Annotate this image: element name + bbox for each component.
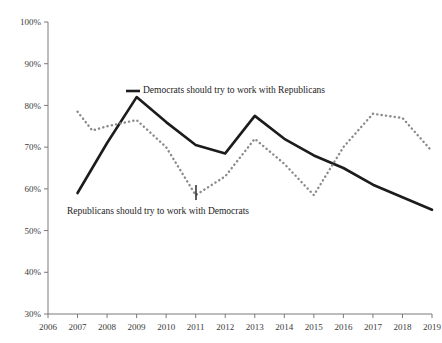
x-tick-label: 2012: [216, 322, 234, 332]
x-tick-label: 2011: [187, 322, 205, 332]
x-tick-label: 2014: [275, 322, 294, 332]
series-line-republicans: [78, 112, 432, 195]
series-line-democrats: [78, 97, 432, 210]
x-tick-label: 2008: [98, 322, 117, 332]
annotations: Democrats should try to work with Republ…: [67, 85, 325, 216]
x-tick-label: 2019: [423, 322, 442, 332]
y-tick-label: 30%: [25, 309, 42, 319]
series-lines: [78, 97, 432, 210]
annotation-label-democrats: Democrats should try to work with Republ…: [143, 85, 325, 95]
y-tick-label: 90%: [25, 59, 42, 69]
x-tick-label: 2018: [393, 322, 412, 332]
line-chart: 100%90%80%70%60%50%40%30% 20062007200820…: [0, 0, 442, 343]
x-tick-label: 2015: [305, 322, 324, 332]
y-tick-label: 80%: [25, 101, 42, 111]
x-tick-label: 2007: [69, 322, 88, 332]
x-tick-label: 2016: [334, 322, 353, 332]
x-tick-label: 2017: [364, 322, 383, 332]
y-tick-label: 70%: [25, 142, 42, 152]
y-tick-label: 40%: [25, 267, 42, 277]
x-tick-label: 2009: [128, 322, 147, 332]
x-tick-label: 2010: [157, 322, 176, 332]
y-tick-label: 60%: [25, 184, 42, 194]
chart-page: 100%90%80%70%60%50%40%30% 20062007200820…: [0, 0, 442, 343]
x-tick-label: 2006: [39, 322, 58, 332]
y-axis: 100%90%80%70%60%50%40%30%: [20, 17, 48, 319]
y-tick-label: 100%: [20, 17, 42, 27]
annotation-label-republicans: Republicans should try to work with Demo…: [67, 206, 249, 216]
x-axis: 2006200720082009201020112012201320142015…: [39, 314, 442, 332]
y-tick-label: 50%: [25, 226, 42, 236]
x-tick-label: 2013: [246, 322, 265, 332]
